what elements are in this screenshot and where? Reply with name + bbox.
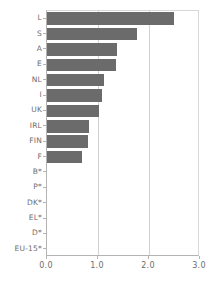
x-axis-tick-mark (97, 256, 98, 259)
bar (47, 59, 116, 71)
x-axis-tick-mark (46, 256, 47, 259)
bar-row (47, 12, 198, 24)
y-axis-tick-label: E (0, 59, 42, 68)
bar-series (47, 11, 198, 255)
y-axis-tick-label: NL (0, 75, 42, 84)
y-axis-tick-label: UK (0, 105, 42, 114)
y-axis-tick-label: EU-15* (0, 244, 42, 253)
bar-row (47, 43, 198, 55)
bar (47, 151, 82, 163)
bar-chart: LSAENLIUKIRLFINFB*P*DK*EL*D*EU-15* 0.01.… (0, 0, 207, 286)
bar-row (47, 89, 198, 101)
bar-row (47, 59, 198, 71)
bar (47, 28, 137, 40)
y-axis-tick-label: L (0, 13, 42, 22)
y-axis-tick-label: I (0, 90, 42, 99)
bar-row (47, 151, 198, 163)
x-axis-tick-label: 2.0 (141, 261, 155, 271)
bar-row (47, 105, 198, 117)
bar-row (47, 135, 198, 147)
x-axis-tick-label: 3.0 (192, 261, 206, 271)
x-axis-tick-label: 1.0 (90, 261, 104, 271)
bar (47, 89, 102, 101)
bar-row (47, 182, 198, 194)
bar-row (47, 212, 198, 224)
bar-row (47, 166, 198, 178)
bar (47, 43, 117, 55)
bar-row (47, 120, 198, 132)
bar-row (47, 74, 198, 86)
bar-row (47, 243, 198, 255)
x-axis-tick-label: 0.0 (39, 261, 53, 271)
x-axis-labels: 0.01.02.03.0 (0, 261, 207, 275)
bar (47, 135, 88, 147)
bar (47, 12, 174, 24)
x-axis-tick-mark (199, 256, 200, 259)
y-axis-tick-label: S (0, 29, 42, 38)
y-axis-tick-label: B* (0, 167, 42, 176)
bar (47, 105, 99, 117)
bar (47, 120, 89, 132)
y-axis-tick-label: A (0, 44, 42, 53)
y-axis-tick-label: DK* (0, 198, 42, 207)
x-axis-tick-mark (148, 256, 149, 259)
y-axis-tick-label: FIN (0, 136, 42, 145)
y-axis-tick-label: IRL (0, 121, 42, 130)
plot-area (46, 10, 199, 256)
bar-row (47, 28, 198, 40)
bar-row (47, 197, 198, 209)
y-axis-tick-label: F (0, 152, 42, 161)
y-axis-tick-label: P* (0, 182, 42, 191)
bar-row (47, 228, 198, 240)
bar (47, 74, 104, 86)
x-axis-ticks (46, 256, 200, 260)
y-axis-tick-label: EL* (0, 213, 42, 222)
y-axis-tick-label: D* (0, 228, 42, 237)
y-axis-labels: LSAENLIUKIRLFINFB*P*DK*EL*D*EU-15* (0, 10, 42, 256)
